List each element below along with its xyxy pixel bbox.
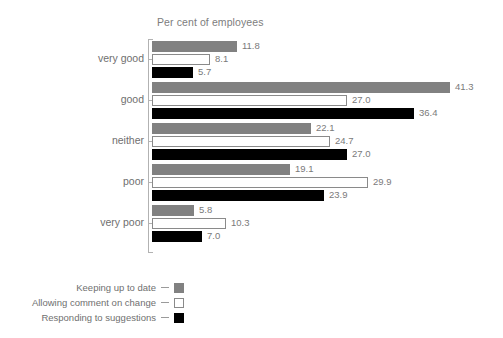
category-label-wrap: very poor [8, 203, 144, 244]
plot-area: very good11.88.15.7good41.327.036.4neith… [0, 33, 503, 265]
bar-value-label: 24.7 [335, 135, 354, 147]
category-label: poor [16, 175, 144, 187]
legend-item-label: Responding to suggestions [41, 311, 156, 324]
bar-value-label: 11.8 [242, 40, 260, 52]
category-label: neither [16, 134, 144, 146]
legend-dash-icon [161, 317, 169, 318]
bar-value-label: 29.9 [373, 176, 392, 188]
bar[interactable] [152, 218, 226, 229]
category-label: very good [16, 52, 144, 64]
bar-group: good41.327.036.4 [0, 80, 503, 121]
legend-item-label: Allowing comment on change [32, 296, 156, 309]
category-axis-cap-bottom [148, 252, 153, 253]
bar[interactable] [152, 67, 193, 78]
bar[interactable] [152, 177, 368, 188]
chart-legend: Keeping up to dateAllowing comment on ch… [0, 281, 184, 326]
bar-value-label: 41.3 [455, 81, 474, 93]
category-label-wrap: poor [8, 162, 144, 203]
category-label-wrap: very good [8, 39, 144, 80]
legend-item[interactable]: Allowing comment on change [0, 296, 184, 309]
bar[interactable] [152, 41, 237, 52]
bar[interactable] [152, 123, 311, 134]
bar[interactable] [152, 54, 210, 65]
bar-group: very good11.88.15.7 [0, 39, 503, 80]
bar[interactable] [152, 164, 290, 175]
bar[interactable] [152, 108, 414, 119]
bar[interactable] [152, 95, 347, 106]
bar[interactable] [152, 149, 347, 160]
bar-chart: Per cent of employees very good11.88.15.… [0, 0, 503, 338]
bar-group: poor19.129.923.9 [0, 162, 503, 203]
bar[interactable] [152, 136, 330, 147]
bar-value-label: 22.1 [316, 122, 335, 134]
bar-value-label: 7.0 [207, 230, 220, 242]
category-label-wrap: good [8, 80, 144, 121]
bar-value-label: 5.7 [198, 66, 211, 78]
bar-value-label: 27.0 [352, 148, 371, 160]
bar-value-label: 19.1 [295, 163, 314, 175]
bar[interactable] [152, 82, 450, 93]
bar-group: very poor5.810.37.0 [0, 203, 503, 244]
legend-item[interactable]: Keeping up to date [0, 281, 184, 294]
legend-color-swatch [174, 298, 184, 308]
bar[interactable] [152, 205, 194, 216]
legend-color-swatch [174, 313, 184, 323]
bar-group: neither22.124.727.0 [0, 121, 503, 162]
bar-value-label: 10.3 [231, 217, 250, 229]
bar-value-label: 27.0 [352, 94, 371, 106]
bar[interactable] [152, 231, 202, 242]
bar-value-label: 23.9 [329, 189, 348, 201]
category-label-wrap: neither [8, 121, 144, 162]
legend-item-label: Keeping up to date [76, 281, 156, 294]
legend-dash-icon [161, 302, 169, 303]
bar[interactable] [152, 190, 324, 201]
bar-value-label: 36.4 [419, 107, 438, 119]
legend-item[interactable]: Responding to suggestions [0, 311, 184, 324]
bar-value-label: 8.1 [215, 53, 228, 65]
legend-color-swatch [174, 283, 184, 293]
category-label: very poor [16, 216, 144, 228]
chart-title: Per cent of employees [157, 16, 264, 28]
category-label: good [16, 93, 144, 105]
legend-dash-icon [161, 287, 169, 288]
bar-value-label: 5.8 [199, 204, 212, 216]
